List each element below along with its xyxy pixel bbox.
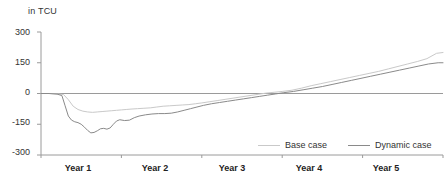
axis-lines <box>37 32 443 158</box>
series-lines <box>41 53 443 133</box>
plot-area <box>0 0 447 185</box>
chart-container: in TCU 300 150 0 -150 -300 Year 1 Year 2… <box>0 0 447 185</box>
